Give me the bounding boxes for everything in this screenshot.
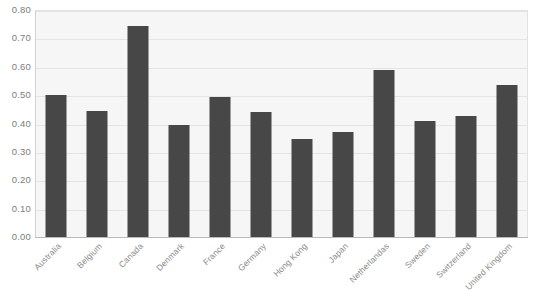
bar-slot	[282, 10, 323, 237]
bar-slot	[240, 10, 281, 237]
bar[interactable]	[456, 116, 477, 237]
x-axis-tick-label: Switzerland	[435, 241, 474, 280]
bar-slot	[199, 10, 240, 237]
bar[interactable]	[497, 85, 518, 237]
bars-layer	[35, 10, 528, 237]
y-axis-tick-label: 0.00	[12, 232, 31, 242]
y-axis-tick-label: 0.10	[12, 204, 31, 214]
y-axis-tick-label: 0.40	[12, 119, 31, 129]
x-axis: AustraliaBelgiumCanadaDenmarkFranceGerma…	[35, 238, 528, 299]
y-axis-tick-label: 0.70	[12, 33, 31, 43]
bar-slot	[76, 10, 117, 237]
y-axis: 0.800.700.600.500.400.300.200.100.00	[0, 0, 35, 299]
bar[interactable]	[127, 26, 148, 237]
bar[interactable]	[45, 95, 66, 237]
bar[interactable]	[333, 132, 354, 237]
bar[interactable]	[292, 139, 313, 237]
y-axis-tick-label: 0.20	[12, 175, 31, 185]
x-axis-tick-label: Hong Kong	[271, 241, 309, 279]
y-axis-tick-label: 0.30	[12, 147, 31, 157]
x-axis-tick-label: Denmark	[154, 241, 186, 273]
bar-slot	[158, 10, 199, 237]
x-axis-tick-label: France	[201, 241, 227, 267]
x-axis-tick-label: Netherlandas	[348, 241, 392, 285]
bar-slot	[35, 10, 76, 237]
x-axis-tick-label: Belgium	[74, 241, 103, 270]
bar-slot	[487, 10, 528, 237]
bar-slot	[323, 10, 364, 237]
bar[interactable]	[86, 111, 107, 237]
bar[interactable]	[209, 97, 230, 237]
bar-chart: 0.800.700.600.500.400.300.200.100.00 Aus…	[0, 0, 553, 299]
x-axis-tick-label: Australia	[32, 241, 63, 272]
y-axis-tick-label: 0.60	[12, 62, 31, 72]
y-axis-tick-label: 0.80	[12, 5, 31, 15]
x-axis-tick-label: Japan	[326, 241, 350, 265]
bar[interactable]	[415, 121, 436, 237]
x-axis-tick-label: Germany	[236, 241, 268, 273]
x-axis-tick-label: Sweden	[403, 241, 432, 270]
bar-slot	[446, 10, 487, 237]
bar[interactable]	[374, 70, 395, 237]
bar[interactable]	[250, 112, 271, 237]
bar-slot	[364, 10, 405, 237]
bar-slot	[117, 10, 158, 237]
x-axis-tick-label: Canada	[116, 241, 145, 270]
y-axis-tick-label: 0.50	[12, 90, 31, 100]
bar-slot	[405, 10, 446, 237]
bar[interactable]	[168, 125, 189, 237]
